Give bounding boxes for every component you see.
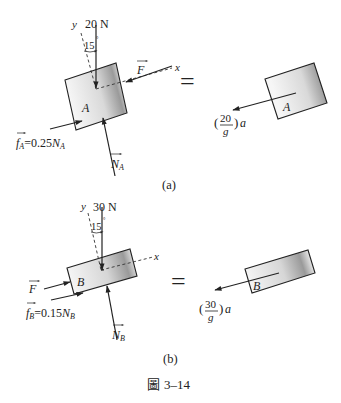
panel-a: A y x 15 ° 20 N F fA=0.25NA bbox=[16, 17, 327, 192]
angle-label-a: 15 bbox=[84, 40, 95, 51]
svg-text:F: F bbox=[136, 63, 145, 77]
y-axis-label-a: y bbox=[71, 18, 77, 30]
svg-text:g: g bbox=[223, 125, 229, 137]
svg-text:30: 30 bbox=[205, 298, 217, 310]
degree-mark-b: ° bbox=[103, 217, 106, 223]
svg-text:g: g bbox=[208, 311, 214, 323]
svg-text:(: ( bbox=[214, 115, 218, 130]
friction-arrow-b bbox=[51, 293, 83, 300]
svg-text:20: 20 bbox=[220, 112, 232, 124]
svg-text:(: ( bbox=[199, 301, 203, 316]
weight-label-a: 20 N bbox=[85, 17, 109, 31]
svg-text:F: F bbox=[28, 282, 37, 296]
free-body-diagram: A y x 15 ° 20 N F fA=0.25NA bbox=[0, 0, 341, 403]
angle-label-b: 15 bbox=[91, 221, 102, 232]
applied-force-arrow-b bbox=[44, 282, 70, 289]
panel-a-label: (a) bbox=[162, 178, 176, 192]
svg-text:NA: NA bbox=[110, 157, 124, 172]
caption-prefix: 圖 bbox=[147, 377, 160, 392]
inertia-label-a: ( 20 g ) a bbox=[214, 112, 246, 137]
svg-text:a: a bbox=[240, 116, 246, 130]
block-b-kinetic-label: B bbox=[253, 279, 261, 293]
figure-caption: 圖 3–14 bbox=[147, 377, 191, 392]
caption-number: 3–14 bbox=[164, 377, 191, 392]
block-a-kinetic bbox=[265, 63, 327, 119]
block-a-label: A bbox=[81, 101, 90, 115]
svg-text:fA=0.25NA: fA=0.25NA bbox=[16, 136, 65, 151]
angle-arc-a bbox=[84, 51, 96, 52]
panel-b: B y x 15 ° 30 N F fB=0.15NB bbox=[26, 200, 315, 366]
panel-b-label: (b) bbox=[163, 352, 178, 366]
equals-sign-a: = bbox=[180, 67, 195, 96]
friction-label-a: fA=0.25NA bbox=[16, 133, 65, 151]
inertia-label-b: ( 30 g ) a bbox=[199, 298, 231, 323]
angle-arc-b bbox=[91, 232, 102, 233]
weight-label-b: 30 N bbox=[93, 200, 117, 214]
block-b-label: B bbox=[77, 275, 85, 289]
svg-text:): ) bbox=[219, 301, 223, 316]
svg-text:NB: NB bbox=[111, 328, 125, 343]
x-axis-label-b: x bbox=[153, 250, 159, 262]
applied-force-label-a: F bbox=[136, 61, 147, 77]
normal-label-a: NA bbox=[110, 154, 124, 172]
y-axis-label-b: y bbox=[80, 200, 86, 212]
friction-label-b: fB=0.15NB bbox=[26, 303, 75, 321]
applied-force-label-b: F bbox=[28, 281, 39, 296]
svg-text:a: a bbox=[225, 302, 231, 316]
applied-force-arrow-a bbox=[126, 66, 172, 82]
svg-text:fB=0.15NB: fB=0.15NB bbox=[26, 306, 75, 321]
svg-text:): ) bbox=[234, 115, 238, 130]
equals-sign-b: = bbox=[171, 267, 186, 296]
block-a-kinetic-label: A bbox=[282, 100, 291, 114]
normal-label-b: NB bbox=[111, 325, 125, 343]
